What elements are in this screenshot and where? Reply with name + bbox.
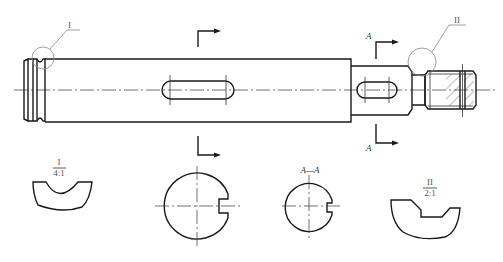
detail-II-title-mark: II [427, 177, 433, 187]
detail-II-view: II 2:1 [391, 177, 460, 239]
detail-I-mark: I [68, 20, 71, 30]
main-view-shaft: I II A A [14, 15, 495, 158]
shaft-step [351, 66, 412, 115]
section-a-arrow-top [376, 42, 392, 59]
section-a-label-bottom: A [365, 143, 372, 153]
section-keyway-middle [155, 166, 293, 248]
detail-II-circle [408, 48, 436, 76]
detail-II-leader [432, 25, 466, 52]
detail-I-view: I 4:1 [33, 157, 92, 210]
detail-I-title-mark: I [58, 157, 61, 167]
section-a-a-title: A—A [300, 165, 321, 175]
thread-section-hatch [446, 74, 460, 106]
detail-II-mark: II [454, 15, 460, 25]
section-A-A-view: A—A [282, 165, 340, 238]
shaft-body [45, 59, 351, 122]
section-arrow-top [198, 31, 214, 47]
detail-I-leader [50, 30, 80, 49]
detail-I-circle [32, 47, 54, 69]
detail-II-section [391, 200, 460, 239]
section-a-label-top: A [365, 31, 372, 41]
detail-I-scale: 4:1 [53, 168, 65, 178]
section-arrow-bottom [198, 136, 214, 155]
detail-I-section [33, 182, 92, 210]
section-a-arrow-bottom [376, 124, 392, 143]
shaft-drawing: I II A A I 4:1 A—A II [0, 0, 503, 262]
detail-II-scale: 2:1 [424, 188, 436, 198]
section-a-a-shape [285, 184, 332, 232]
